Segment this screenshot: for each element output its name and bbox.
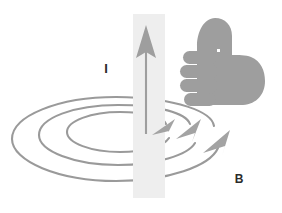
hand-finger-4 <box>184 93 216 106</box>
diagram-canvas: I B <box>0 0 282 213</box>
hand-finger-1 <box>183 51 217 64</box>
current-label: I <box>104 61 108 76</box>
hand-finger-separators <box>217 49 220 52</box>
field-label: B <box>235 172 244 186</box>
hand-finger-3 <box>180 79 218 92</box>
right-hand-rule-figure: I B <box>0 0 282 213</box>
hand-finger-2 <box>180 65 218 78</box>
